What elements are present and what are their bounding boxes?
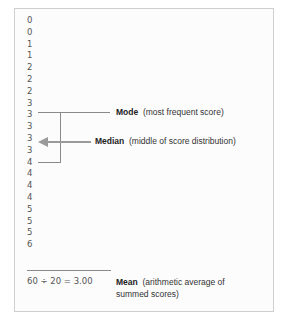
- score-item: 3: [27, 109, 32, 121]
- score-item: 4: [27, 180, 32, 192]
- score-item: 6: [27, 239, 32, 251]
- score-item: 0: [27, 15, 32, 27]
- bracket-vertical-line: [60, 112, 61, 162]
- score-item: 3: [27, 121, 32, 133]
- score-item: 1: [27, 50, 32, 62]
- score-item: 5: [27, 227, 32, 239]
- score-item: 3: [27, 133, 32, 145]
- bracket-bottom-line: [38, 162, 61, 163]
- mode-connector-line: [38, 112, 110, 113]
- score-item: 3: [27, 145, 32, 157]
- mode-label: Mode (most frequent score): [116, 107, 224, 117]
- score-item: 4: [27, 168, 32, 180]
- median-label: Median (middle of score distribution): [95, 136, 236, 146]
- score-list: 0 0 1 1 2 2 2 3 3 3 3 3 4 4 4 4 5 5 5 6: [27, 15, 32, 251]
- score-item: 0: [27, 27, 32, 39]
- median-term: Median: [95, 136, 124, 146]
- mean-description-line1: (arithmetic average of: [142, 277, 224, 287]
- score-item: 2: [27, 86, 32, 98]
- score-item: 4: [27, 157, 32, 169]
- score-item: 1: [27, 39, 32, 51]
- mean-description-line2: summed scores): [116, 289, 179, 299]
- score-item: 4: [27, 192, 32, 204]
- score-item: 5: [27, 216, 32, 228]
- score-item: 5: [27, 204, 32, 216]
- mode-description: (most frequent score): [143, 107, 224, 117]
- mean-label: Mean (arithmetic average of summed score…: [116, 276, 225, 300]
- mean-formula: 60 ÷ 20 = 3.00: [27, 276, 93, 286]
- diagram-panel: [14, 8, 274, 312]
- mode-term: Mode: [116, 107, 138, 117]
- mean-term: Mean: [116, 277, 138, 287]
- median-description: (middle of score distribution): [129, 136, 236, 146]
- score-item: 2: [27, 74, 32, 86]
- score-item: 2: [27, 62, 32, 74]
- median-arrow-shaft: [47, 141, 91, 144]
- sum-divider-line: [27, 270, 111, 271]
- score-item: 3: [27, 98, 32, 110]
